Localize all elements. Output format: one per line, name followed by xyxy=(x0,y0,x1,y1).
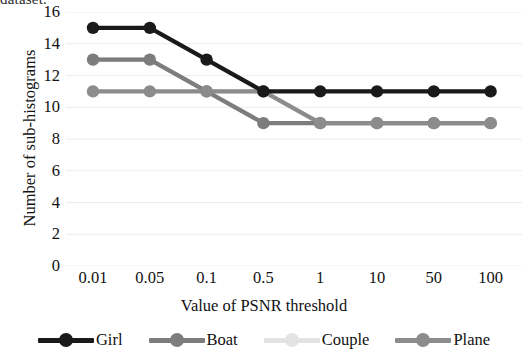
x-tick-label: 1 xyxy=(316,268,324,288)
x-tick-label: 0.5 xyxy=(253,268,274,288)
data-point-marker xyxy=(314,85,326,97)
legend-item-plane[interactable]: Plane xyxy=(395,330,490,350)
data-point-marker xyxy=(87,85,99,97)
data-point-marker xyxy=(144,85,156,97)
legend-swatch xyxy=(38,332,94,348)
data-point-marker xyxy=(257,117,269,129)
plot-area xyxy=(66,12,522,266)
x-tick-label: 100 xyxy=(478,268,503,288)
y-tick-label: 14 xyxy=(26,36,60,52)
legend-item-girl[interactable]: Girl xyxy=(38,330,123,350)
x-axis-title: Value of PSNR threshold xyxy=(0,296,528,316)
data-point-marker xyxy=(144,53,156,65)
data-point-marker xyxy=(484,117,496,129)
legend-label: Boat xyxy=(207,330,238,350)
x-tick-label: 10 xyxy=(369,268,386,288)
legend-label: Girl xyxy=(96,330,123,350)
circle-marker-icon xyxy=(285,333,299,347)
data-point-marker xyxy=(484,85,496,97)
chart-legend: GirlBoatCouplePlane xyxy=(0,326,528,354)
cropped-caption-text: dataset. xyxy=(0,0,120,7)
legend-swatch xyxy=(395,332,451,348)
data-point-marker xyxy=(371,117,383,129)
y-axis-tick-labels: 0246810121416 xyxy=(26,0,60,290)
legend-label: Plane xyxy=(453,330,490,350)
data-point-marker xyxy=(200,53,212,65)
y-tick-label: 4 xyxy=(26,195,60,211)
data-point-marker xyxy=(87,53,99,65)
legend-item-couple[interactable]: Couple xyxy=(264,330,370,350)
circle-marker-icon xyxy=(416,333,430,347)
data-point-marker xyxy=(87,22,99,34)
y-tick-label: 6 xyxy=(26,163,60,179)
x-axis-tick-labels: 0.010.050.10.511050100 xyxy=(66,268,522,294)
circle-marker-icon xyxy=(170,333,184,347)
data-point-marker xyxy=(144,22,156,34)
legend-swatch xyxy=(264,332,320,348)
y-tick-label: 2 xyxy=(26,226,60,242)
legend-swatch xyxy=(149,332,205,348)
y-tick-label: 10 xyxy=(26,99,60,115)
x-tick-label: 0.1 xyxy=(196,268,217,288)
data-point-marker xyxy=(200,85,212,97)
y-tick-label: 8 xyxy=(26,131,60,147)
y-tick-label: 12 xyxy=(26,68,60,84)
chart-figure: dataset. Number of sub-histograms 024681… xyxy=(0,0,528,356)
x-tick-label: 0.01 xyxy=(79,268,108,288)
data-point-marker xyxy=(257,85,269,97)
data-point-marker xyxy=(428,85,440,97)
legend-label: Couple xyxy=(322,330,370,350)
y-tick-label: 0 xyxy=(26,258,60,274)
circle-marker-icon xyxy=(59,333,73,347)
y-tick-label: 16 xyxy=(26,4,60,20)
data-point-marker xyxy=(428,117,440,129)
data-point-marker xyxy=(371,85,383,97)
legend-item-boat[interactable]: Boat xyxy=(149,330,238,350)
x-tick-label: 0.05 xyxy=(135,268,164,288)
line-chart-svg xyxy=(66,12,522,266)
data-point-marker xyxy=(314,117,326,129)
x-tick-label: 50 xyxy=(426,268,443,288)
